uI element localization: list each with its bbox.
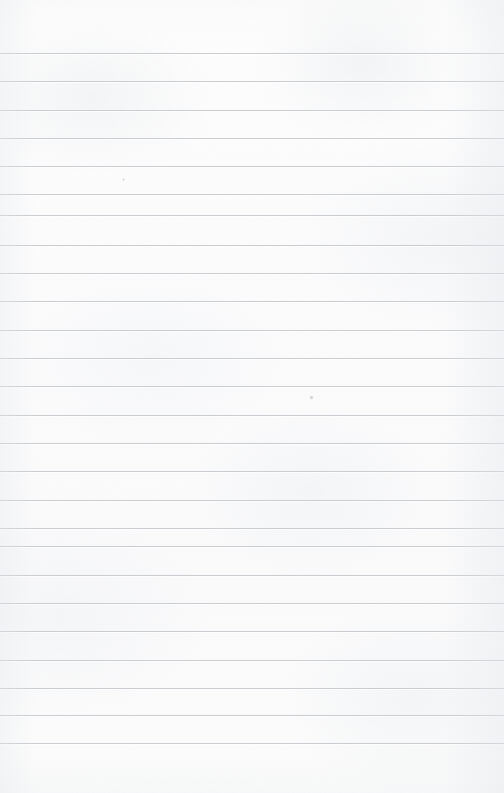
lined-paper-page bbox=[0, 0, 504, 793]
writing-area[interactable] bbox=[0, 0, 504, 793]
